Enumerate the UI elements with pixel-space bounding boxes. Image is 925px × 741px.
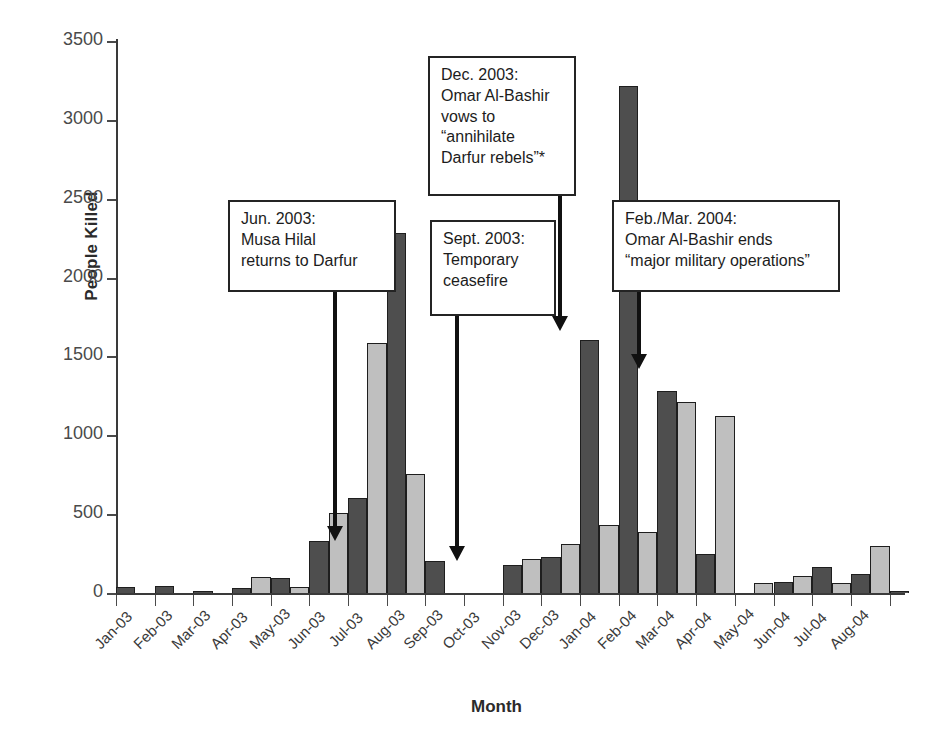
x-tick-mark: [348, 595, 349, 606]
x-tick-label: Nov-03: [478, 609, 521, 652]
x-tick-mark: [851, 595, 852, 606]
x-tick-mark: [232, 595, 233, 606]
x-tick-label: Oct-03: [439, 609, 482, 652]
bar: [232, 588, 251, 593]
x-tick-label: May-03: [246, 609, 289, 652]
y-tick-mark: [107, 593, 116, 595]
bar: [503, 565, 522, 593]
bar: [155, 586, 174, 593]
x-tick-label: Jan-03: [91, 609, 134, 652]
arrow-shaft: [333, 292, 337, 527]
bar: [851, 574, 870, 593]
x-tick-label: Mar-04: [632, 609, 675, 652]
x-tick-label: Apr-03: [207, 609, 250, 652]
x-tick-label: Dec-03: [516, 609, 559, 652]
y-tick-label: 500: [73, 502, 103, 523]
bar: [541, 557, 560, 593]
arrow-head: [631, 354, 647, 369]
x-axis-title: Month: [0, 697, 925, 717]
x-tick-mark: [271, 595, 272, 606]
y-tick-mark: [107, 278, 116, 280]
bar: [832, 583, 851, 593]
x-tick-label: Jul-03: [323, 609, 366, 652]
x-tick-mark: [425, 595, 426, 606]
bar: [367, 343, 386, 593]
x-tick-mark: [503, 595, 504, 606]
x-tick-mark: [193, 595, 194, 606]
bar: [116, 587, 135, 593]
x-tick-label: Apr-04: [671, 609, 714, 652]
bar: [696, 554, 715, 593]
y-tick-mark: [107, 120, 116, 122]
y-tick-label: 2500: [63, 187, 103, 208]
x-tick-label: Aug-04: [826, 609, 869, 652]
chart-page: People Killed Month 05001000150020002500…: [0, 0, 925, 741]
x-tick-mark: [387, 595, 388, 606]
arrow-head: [552, 316, 568, 331]
bar: [290, 587, 309, 593]
x-tick-label: Jan-04: [555, 609, 598, 652]
annotation-callout-sept-2003: Sept. 2003: Temporary ceasefire: [430, 220, 556, 316]
x-tick-mark: [657, 595, 658, 606]
x-tick-mark: [619, 595, 620, 606]
bar: [522, 559, 541, 593]
arrow-shaft: [455, 316, 459, 547]
bar: [561, 544, 580, 593]
x-tick-mark: [309, 595, 310, 606]
x-tick-mark: [155, 595, 156, 606]
x-tick-mark: [774, 595, 775, 606]
x-tick-mark: [541, 595, 542, 606]
x-tick-label: Jul-04: [787, 609, 830, 652]
x-tick-mark: [696, 595, 697, 606]
x-tick-mark: [464, 595, 465, 606]
bar: [715, 416, 734, 593]
y-axis-line: [116, 39, 118, 595]
bar: [657, 391, 676, 593]
y-tick-mark: [107, 41, 116, 43]
bar: [870, 546, 889, 593]
x-tick-label: Feb-04: [594, 609, 637, 652]
bar: [425, 561, 444, 593]
bar: [677, 402, 696, 593]
x-tick-label: Mar-03: [168, 609, 211, 652]
y-tick-label: 1000: [63, 423, 103, 444]
y-tick-label: 3500: [63, 29, 103, 50]
y-tick-label: 0: [93, 581, 103, 602]
arrow-head: [327, 526, 343, 541]
x-axis-line: [116, 593, 905, 595]
x-tick-label: Feb-03: [130, 609, 173, 652]
annotation-callout-jun-2003: Jun. 2003: Musa Hilal returns to Darfur: [228, 200, 396, 292]
arrow-shaft: [637, 292, 641, 355]
x-tick-label: Aug-03: [362, 609, 405, 652]
y-tick-mark: [107, 435, 116, 437]
bar: [406, 474, 425, 593]
bar: [309, 541, 328, 593]
x-tick-mark: [580, 595, 581, 606]
bar: [348, 498, 367, 593]
y-tick-label: 1500: [63, 344, 103, 365]
x-tick-label: Sep-03: [400, 609, 443, 652]
annotation-callout-feb-mar-2004: Feb./Mar. 2004: Omar Al-Bashir ends “maj…: [612, 200, 840, 292]
x-tick-mark: [735, 595, 736, 606]
bar: [251, 577, 270, 593]
bar: [812, 567, 831, 593]
x-tick-label: May-04: [710, 609, 753, 652]
y-tick-label: 3000: [63, 108, 103, 129]
annotation-callout-dec-2003: Dec. 2003: Omar Al-Bashir vows to “annih…: [428, 56, 576, 196]
y-tick-mark: [107, 514, 116, 516]
y-tick-label: 2000: [63, 266, 103, 287]
bar: [580, 340, 599, 593]
y-tick-mark: [107, 356, 116, 358]
arrow-shaft: [558, 196, 562, 317]
bar: [793, 576, 812, 593]
x-tick-mark: [890, 595, 891, 606]
bar: [271, 578, 290, 593]
bar: [774, 582, 793, 593]
bar: [890, 591, 909, 593]
bar: [619, 86, 638, 593]
bar: [193, 591, 212, 593]
bar: [638, 532, 657, 593]
x-tick-mark: [116, 595, 117, 606]
y-tick-mark: [107, 199, 116, 201]
bar: [754, 583, 773, 593]
